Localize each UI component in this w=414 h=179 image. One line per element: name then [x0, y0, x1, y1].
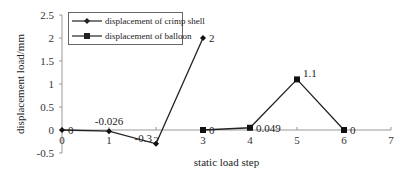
diamond-marker-icon: [72, 17, 102, 25]
square-marker-icon: [200, 127, 206, 133]
data-label: -0.026: [95, 115, 124, 127]
y-tick-label: 1.5: [40, 55, 54, 67]
data-label: 0: [209, 124, 215, 136]
data-label: -0.3: [135, 132, 153, 144]
series-line: [62, 38, 203, 144]
x-tick-label: 7: [388, 134, 394, 146]
x-tick-label: 3: [200, 134, 206, 146]
y-axis-label: displacement load/mm: [14, 34, 26, 134]
square-marker-icon: [247, 125, 253, 131]
diamond-marker-icon: [200, 35, 206, 41]
legend-item-crimp-shell: displacement of crimp shell: [72, 14, 205, 28]
x-tick-label: 1: [106, 134, 112, 146]
x-tick-label: 6: [341, 134, 347, 146]
square-marker-icon: [341, 127, 347, 133]
y-tick-label: 2.5: [40, 9, 54, 21]
x-tick-label: 5: [294, 134, 300, 146]
y-tick-label: 2: [49, 32, 55, 44]
legend: displacement of crimp shell displacement…: [68, 12, 183, 45]
line-chart: 2.521.510.50-0.501234567static load step…: [0, 0, 414, 179]
data-label: 0.049: [256, 122, 281, 134]
x-tick-label: 4: [247, 134, 253, 146]
legend-label: displacement of crimp shell: [105, 16, 205, 26]
y-tick-label: 0: [49, 124, 55, 136]
square-marker-icon: [72, 32, 102, 40]
square-marker-icon: [294, 76, 300, 82]
y-tick-label: 1: [49, 78, 55, 90]
data-label: 2: [209, 32, 215, 44]
data-label: 1.1: [303, 67, 317, 79]
diamond-marker-icon: [59, 127, 65, 133]
data-label: 0: [350, 124, 356, 136]
y-tick-label: -0.5: [37, 147, 55, 159]
x-axis-label: static load step: [194, 156, 260, 168]
x-tick-label: 0: [59, 134, 65, 146]
legend-label: displacement of balloon: [105, 31, 191, 41]
y-tick-label: 0.5: [40, 101, 54, 113]
legend-item-balloon: displacement of balloon: [72, 29, 191, 43]
data-label: 0: [68, 124, 74, 136]
